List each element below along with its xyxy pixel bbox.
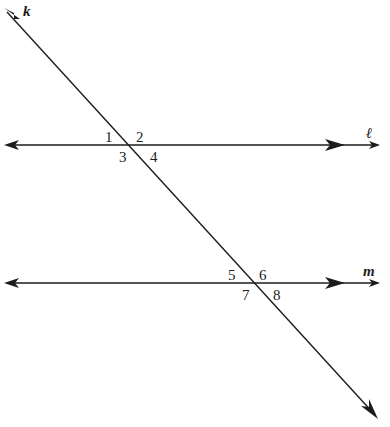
line-label-m: m: [363, 264, 375, 279]
line-label-l: ℓ: [366, 126, 372, 141]
angle-label-2: 2: [136, 130, 144, 145]
angle-label-8: 8: [273, 288, 281, 303]
geometry-diagram: k ℓ m 1 2 3 4 5 6 7 8: [0, 0, 390, 427]
transversal-k-stroke: [7, 12, 375, 415]
angle-label-5: 5: [228, 268, 236, 283]
line-label-k: k: [23, 4, 31, 19]
angle-label-4: 4: [150, 150, 158, 165]
angle-label-3: 3: [119, 150, 127, 165]
angle-label-1: 1: [105, 130, 113, 145]
angle-label-7: 7: [242, 288, 250, 303]
geometry-svg: [0, 0, 390, 427]
line-m-group: [4, 277, 380, 289]
transversal-k-group: [4, 8, 378, 419]
line-l-group: [4, 139, 380, 151]
angle-label-6: 6: [259, 268, 267, 283]
